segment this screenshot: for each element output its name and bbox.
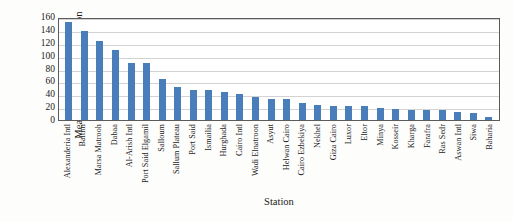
x-tick-label: Farafra <box>423 124 431 148</box>
x-tick-slot: Farafra <box>424 122 431 192</box>
y-tick-label: 40 <box>28 91 55 101</box>
bar <box>190 90 197 120</box>
bar <box>408 110 415 120</box>
x-tick-label: Kharga <box>408 124 416 148</box>
x-tick-label: Al-Arish Intl <box>126 124 134 167</box>
x-tick-label: Helwan Cairo <box>283 124 291 170</box>
x-tick-label: Ismailia <box>204 124 212 151</box>
x-tick-label: Hurghada <box>220 124 228 157</box>
bar <box>81 31 88 120</box>
bar <box>236 94 243 120</box>
bar <box>65 22 72 120</box>
bar <box>377 108 384 120</box>
x-tick-label: Asyut <box>267 124 275 144</box>
x-tick-label: Baltim <box>79 124 87 147</box>
x-tick-label: Salloum <box>158 124 166 152</box>
x-axis-title: Station <box>58 196 500 207</box>
x-tick-label: Luxor <box>345 124 353 144</box>
x-tick-label: Wadi Elnatroon <box>251 124 259 176</box>
bar <box>221 92 228 120</box>
y-tick-label: 140 <box>28 26 55 36</box>
x-tick-label: Siwa <box>470 124 478 141</box>
x-tick-slot: Port Said Elgamil <box>143 122 150 192</box>
y-tick-label: 100 <box>28 52 55 62</box>
x-tick-slot: Giza Cairo <box>330 122 337 192</box>
x-tick-label: Nekhel <box>314 124 322 148</box>
bar <box>205 90 212 120</box>
plot-area <box>58 18 500 121</box>
bar <box>454 112 461 120</box>
bar <box>423 110 430 120</box>
bar <box>485 117 492 120</box>
precipitation-bar-chart: Mean of Annual Precipitation (mm) 020406… <box>0 0 513 221</box>
x-tick-slot: Port Said <box>189 122 196 192</box>
y-tick-label: 20 <box>28 103 55 113</box>
x-tick-slot: Cairo Ezbekiya <box>299 122 306 192</box>
x-tick-slot: Cairo Intl <box>236 122 243 192</box>
x-tick-slot: Ras Sedr <box>440 122 447 192</box>
x-tick-slot: Salloum <box>158 122 165 192</box>
x-tick-label: Alexanderia Intl <box>64 124 72 178</box>
x-tick-slot: Minya <box>377 122 384 192</box>
x-tick-label: Cairo Intl <box>236 124 244 156</box>
x-tick-slot: Hurghada <box>221 122 228 192</box>
x-tick-slot: Dabaa <box>111 122 118 192</box>
x-tick-slot: Helwan Cairo <box>283 122 290 192</box>
x-tick-slot: Siwa <box>471 122 478 192</box>
x-tick-slot: Aswan Intl <box>455 122 462 192</box>
bar <box>345 106 352 120</box>
x-tick-label: Port Said Elgamil <box>142 124 150 183</box>
x-tick-label: Sallum Plateau <box>173 124 181 174</box>
y-tick-label: 80 <box>28 65 55 75</box>
bar <box>470 113 477 120</box>
y-tick-label: 160 <box>28 13 55 23</box>
x-axis-tick-labels: Alexanderia IntlBaltimMarsa MatroohDabaa… <box>58 122 500 192</box>
x-tick-label: Cairo Ezbekiya <box>298 124 306 175</box>
bar <box>299 103 306 120</box>
bar <box>252 97 259 120</box>
y-axis-tick-labels: 020406080100120140160 <box>28 18 55 121</box>
y-tick-label: 60 <box>28 78 55 88</box>
x-tick-slot: Eltor <box>361 122 368 192</box>
bar-series <box>59 19 499 120</box>
x-tick-label: Eltor <box>361 124 369 141</box>
x-tick-label: Minya <box>377 124 385 146</box>
bar <box>143 63 150 120</box>
x-tick-label: Marsa Matrooh <box>95 124 103 175</box>
y-tick-label: 0 <box>28 116 55 126</box>
x-tick-label: Baharia <box>486 124 494 150</box>
x-tick-slot: Nekhel <box>315 122 322 192</box>
x-tick-slot: Wadi Elnatroon <box>252 122 259 192</box>
bar <box>268 99 275 120</box>
y-tick-label: 120 <box>28 39 55 49</box>
x-tick-label: Ras Sedr <box>439 124 447 154</box>
bar <box>283 99 290 120</box>
bar <box>128 63 135 120</box>
x-tick-slot: Kharga <box>408 122 415 192</box>
bar <box>330 106 337 120</box>
x-tick-label: Kosseir <box>392 124 400 149</box>
x-tick-slot: Alexanderia Intl <box>64 122 71 192</box>
bar <box>314 105 321 120</box>
bar <box>112 50 119 120</box>
bar <box>361 106 368 120</box>
x-tick-label: Giza Cairo <box>330 124 338 160</box>
x-tick-slot: Baharia <box>487 122 494 192</box>
bar <box>392 109 399 120</box>
bar <box>439 110 446 120</box>
x-tick-slot: Asyut <box>268 122 275 192</box>
x-tick-slot: Baltim <box>80 122 87 192</box>
x-tick-label: Aswan Intl <box>455 124 463 161</box>
bar <box>159 79 166 120</box>
x-tick-slot: Luxor <box>346 122 353 192</box>
x-tick-slot: Sallum Plateau <box>174 122 181 192</box>
x-tick-slot: Kosseir <box>393 122 400 192</box>
x-tick-slot: Al-Arish Intl <box>127 122 134 192</box>
x-tick-label: Port Said <box>189 124 197 155</box>
bar <box>96 41 103 120</box>
x-tick-slot: Ismailia <box>205 122 212 192</box>
x-tick-label: Dabaa <box>111 124 119 145</box>
bar <box>174 87 181 120</box>
x-tick-slot: Marsa Matrooh <box>96 122 103 192</box>
